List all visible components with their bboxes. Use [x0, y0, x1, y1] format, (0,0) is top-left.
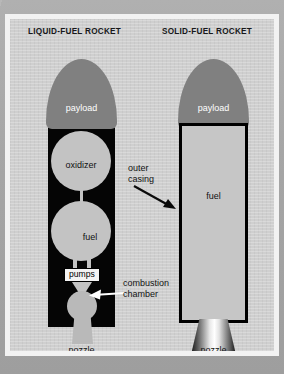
diagram-stage: LIQUID-FUEL ROCKET SOLID-FUEL ROCKET pay…	[0, 0, 284, 374]
liquid-nozzle	[72, 309, 93, 344]
solid-fuel-label: fuel	[179, 191, 248, 201]
liquid-fuel-label: fuel	[83, 232, 98, 242]
solid-payload-label: payload	[178, 103, 249, 113]
solid-nozzle-label: nozzle	[179, 345, 248, 351]
outer-casing-arrow-icon	[130, 182, 180, 212]
combustion-chamber-callout-line2: chamber	[123, 289, 169, 300]
outer-casing	[179, 123, 248, 323]
right-rocket-title: SOLID-FUEL ROCKET	[162, 27, 252, 36]
liquid-fuel-tank: fuel	[51, 201, 111, 261]
liquid-nozzle-label: nozzle	[48, 345, 115, 351]
oxidizer-tank: oxidizer	[51, 131, 111, 191]
oxidizer-label: oxidizer	[65, 160, 96, 170]
liquid-payload-label: payload	[46, 103, 117, 113]
left-rocket-title: LIQUID-FUEL ROCKET	[28, 27, 121, 36]
outer-casing-callout-line1: outer	[128, 163, 154, 174]
combustion-chamber-arrow-icon	[79, 275, 127, 305]
combustion-chamber-callout: combustion chamber	[123, 278, 169, 299]
solid-payload-nosecone: payload	[178, 59, 249, 129]
combustion-chamber-callout-line1: combustion	[123, 278, 169, 289]
figure-frame: LIQUID-FUEL ROCKET SOLID-FUEL ROCKET pay…	[5, 14, 279, 356]
outer-casing-callout: outer casing	[128, 163, 154, 184]
figure-caption	[0, 358, 284, 374]
figure-panel: LIQUID-FUEL ROCKET SOLID-FUEL ROCKET pay…	[10, 19, 274, 351]
liquid-payload-nosecone: payload	[46, 59, 117, 129]
